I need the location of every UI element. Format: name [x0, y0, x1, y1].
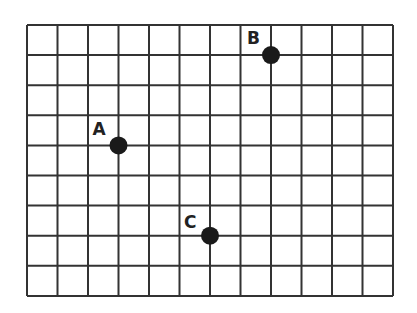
grid-svg: ABC — [0, 0, 417, 313]
point-dot — [110, 136, 128, 154]
point-label: B — [247, 28, 260, 48]
point-label: A — [93, 119, 107, 139]
grid-lines — [27, 25, 393, 296]
point-label: C — [184, 212, 196, 232]
point-dot — [262, 46, 280, 64]
point-b: B — [247, 28, 280, 64]
point-a: A — [93, 119, 128, 154]
points-layer: ABC — [93, 28, 281, 245]
coordinate-grid-diagram: ABC — [0, 0, 417, 313]
point-dot — [201, 227, 219, 245]
point-c: C — [184, 212, 219, 245]
